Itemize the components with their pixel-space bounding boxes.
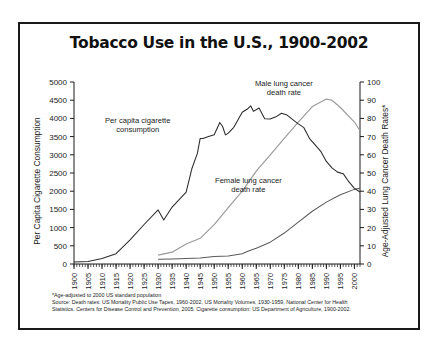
svg-text:90: 90: [367, 96, 376, 105]
svg-text:40: 40: [367, 187, 376, 196]
plot-area: 0 500 1000 1500 2000 2500 3000 3500 4000…: [20, 24, 422, 332]
svg-text:1940: 1940: [182, 273, 191, 289]
svg-text:1965: 1965: [252, 273, 261, 289]
svg-text:20: 20: [367, 224, 376, 233]
footnote-source-line1: Source: Death rates: US Mortality Public…: [52, 299, 402, 306]
svg-text:1500: 1500: [49, 205, 67, 214]
svg-text:1960: 1960: [238, 273, 247, 289]
svg-text:1935: 1935: [168, 273, 177, 289]
left-axis-title: Per Capita Cigarette Consumption: [32, 101, 42, 261]
annotation-female-line2: death rate: [215, 185, 282, 194]
svg-text:1915: 1915: [112, 273, 121, 289]
svg-text:0: 0: [63, 260, 68, 269]
right-axis-tick-labels: 0 10 20 30 40 50 60 70 80 90 100: [367, 78, 381, 269]
svg-text:1980: 1980: [294, 273, 303, 289]
svg-text:100: 100: [367, 78, 381, 87]
svg-text:5000: 5000: [49, 78, 67, 87]
svg-text:2000: 2000: [350, 273, 359, 289]
svg-text:1995: 1995: [336, 273, 345, 289]
svg-text:3500: 3500: [49, 133, 67, 142]
svg-text:60: 60: [367, 151, 376, 160]
svg-text:0: 0: [367, 260, 372, 269]
svg-text:1900: 1900: [70, 273, 79, 289]
svg-text:1945: 1945: [196, 273, 205, 289]
svg-text:1925: 1925: [140, 273, 149, 289]
svg-text:50: 50: [367, 169, 376, 178]
svg-text:1970: 1970: [266, 273, 275, 289]
svg-text:1990: 1990: [322, 273, 331, 289]
svg-text:500: 500: [54, 242, 68, 251]
svg-text:1985: 1985: [308, 273, 317, 289]
left-axis-tick-labels: 0 500 1000 1500 2000 2500 3000 3500 4000…: [49, 78, 67, 269]
right-axis-title: Age-Adjusted Lung Cancer Death Rates*: [380, 101, 390, 261]
svg-text:70: 70: [367, 133, 376, 142]
svg-text:2500: 2500: [49, 169, 67, 178]
series-female-lung-cancer: [158, 188, 360, 259]
svg-text:2000: 2000: [49, 187, 67, 196]
left-axis: [70, 82, 74, 264]
x-axis-tick-labels: 1900190519101915192019251930193519401945…: [70, 273, 359, 289]
svg-text:1920: 1920: [126, 273, 135, 289]
svg-text:80: 80: [367, 114, 376, 123]
annotation-female-line1: Female lung cancer: [215, 176, 282, 185]
annotation-male-line1: Male lung cancer: [255, 79, 313, 88]
annotation-consumption-line2: consumption: [105, 125, 170, 134]
annotation-cigarette-consumption: Per capita cigarette consumption: [105, 116, 170, 134]
right-axis: [360, 82, 364, 264]
svg-text:1950: 1950: [210, 273, 219, 289]
svg-text:1955: 1955: [224, 273, 233, 289]
annotation-male-lung-cancer: Male lung cancer death rate: [255, 79, 313, 97]
svg-text:1910: 1910: [98, 273, 107, 289]
svg-text:10: 10: [367, 242, 376, 251]
annotation-male-line2: death rate: [255, 88, 313, 97]
annotation-female-lung-cancer: Female lung cancer death rate: [215, 176, 282, 194]
footnote-source-line2: Statistics. Centers for Disease Control …: [52, 306, 402, 313]
svg-text:1975: 1975: [280, 273, 289, 289]
footnote-block: *Age-adjusted to 2000 US standard popula…: [52, 292, 402, 314]
svg-text:1905: 1905: [84, 273, 93, 289]
annotation-consumption-line1: Per capita cigarette: [105, 116, 170, 125]
svg-text:30: 30: [367, 205, 376, 214]
footnote-age-adjustment: *Age-adjusted to 2000 US standard popula…: [52, 292, 402, 299]
x-axis-major-ticks: [74, 264, 354, 269]
svg-text:1000: 1000: [49, 224, 67, 233]
svg-text:1930: 1930: [154, 273, 163, 289]
chart-figure: Tobacco Use in the U.S., 1900-2002 0: [18, 22, 420, 330]
svg-text:4500: 4500: [49, 96, 67, 105]
svg-text:4000: 4000: [49, 114, 67, 123]
svg-text:3000: 3000: [49, 151, 67, 160]
